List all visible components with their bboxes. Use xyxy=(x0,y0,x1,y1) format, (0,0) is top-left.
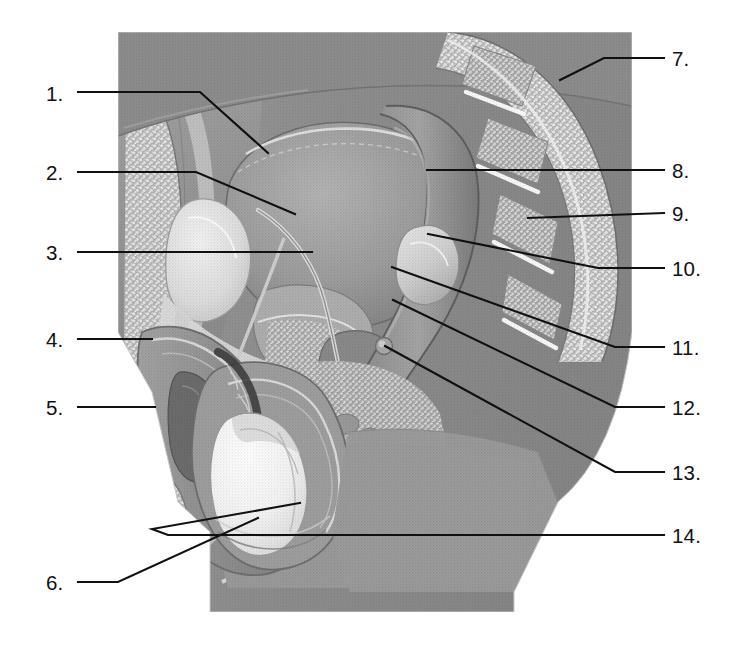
label-number-3: 3. xyxy=(46,243,64,264)
label-number-5: 5. xyxy=(46,398,64,419)
label-number-8: 8. xyxy=(672,161,690,182)
label-number-11: 11. xyxy=(672,338,700,359)
label-number-9: 9. xyxy=(672,204,690,225)
label-number-2: 2. xyxy=(46,163,64,184)
label-number-1: 1. xyxy=(46,84,64,105)
diagram-canvas: 1.2.3.4.5.6.7.8.9.10.11.12.13.14. xyxy=(0,0,741,646)
anatomy-illustration xyxy=(118,32,632,612)
label-number-13: 13. xyxy=(672,463,701,484)
label-number-6: 6. xyxy=(46,573,64,594)
label-number-10: 10. xyxy=(672,259,701,280)
label-number-12: 12. xyxy=(672,398,701,419)
label-number-14: 14. xyxy=(672,526,701,547)
label-number-7: 7. xyxy=(672,49,690,70)
label-number-4: 4. xyxy=(46,330,64,351)
